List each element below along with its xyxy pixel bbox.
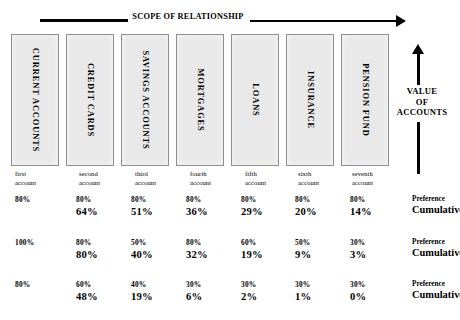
data-cell: 40%19% xyxy=(131,280,175,314)
value-axis-label-line3: ACCOUNTS xyxy=(386,107,458,118)
data-cell: 30%6% xyxy=(186,280,230,314)
cumulative-value: 40% xyxy=(131,249,175,260)
account-label-noun: account xyxy=(79,179,100,188)
scope-axis-label: SCOPE OF RELATIONSHIP xyxy=(130,12,246,21)
account-label-noun: account xyxy=(15,179,36,188)
scope-axis-line-right xyxy=(250,20,398,22)
data-cell: 80% xyxy=(15,280,59,314)
preference-value: 50% xyxy=(131,238,175,247)
account-label-4: fourthaccount xyxy=(190,170,211,187)
product-box-label: INSURANCE xyxy=(306,71,315,129)
cumulative-value: 20% xyxy=(295,206,339,217)
preference-value: 30% xyxy=(186,280,230,289)
data-cell: 80%51% xyxy=(131,195,175,229)
value-axis-label-line2: OF xyxy=(386,97,458,108)
product-box-5: LOANS xyxy=(231,34,279,166)
data-cell: 80%20% xyxy=(295,195,339,229)
account-label-ordinal: sixth xyxy=(298,170,319,179)
cumulative-value: 14% xyxy=(350,206,394,217)
preference-value: 30% xyxy=(350,280,394,289)
scope-of-relationship-axis: SCOPE OF RELATIONSHIP xyxy=(0,8,460,30)
product-box-6: INSURANCE xyxy=(286,34,334,166)
data-cell: 50%9% xyxy=(295,238,339,272)
scope-axis-line-left xyxy=(40,19,128,22)
preference-value: 80% xyxy=(241,195,285,204)
account-label-ordinal: second xyxy=(79,170,100,179)
preference-value: 80% xyxy=(186,195,230,204)
data-cell: 30%1% xyxy=(295,280,339,314)
row-series-labels: PreferenceCumulative xyxy=(412,238,460,259)
value-axis-line-bottom xyxy=(417,122,420,174)
cumulative-value: 1% xyxy=(295,291,339,302)
data-cell: 100% xyxy=(15,238,59,272)
data-cell: 80%36% xyxy=(186,195,230,229)
data-cell: 50%40% xyxy=(131,238,175,272)
account-label-ordinal: fourth xyxy=(190,170,211,179)
product-box-label: LOANS xyxy=(251,83,260,116)
row-label-preference: Preference xyxy=(412,238,460,246)
data-cell: 30%3% xyxy=(350,238,394,272)
account-label-noun: account xyxy=(245,179,266,188)
row-label-cumulative: Cumulative xyxy=(412,247,460,259)
account-label-ordinal: fifth xyxy=(245,170,266,179)
value-axis-line-top xyxy=(417,53,420,85)
data-cell: 80%64% xyxy=(76,195,120,229)
preference-value: 80% xyxy=(131,195,175,204)
account-label-1: firstaccount xyxy=(15,170,36,187)
data-cell: 60%48% xyxy=(76,280,120,314)
cumulative-value: 0% xyxy=(350,291,394,302)
account-label-ordinal: seventh xyxy=(352,170,373,179)
product-box-label: CREDIT CARDS xyxy=(86,63,95,137)
preference-value: 50% xyxy=(295,238,339,247)
arrow-right-icon xyxy=(396,15,406,27)
product-box-label: SAVINGS ACCOUNTS xyxy=(141,50,150,149)
row-label-preference: Preference xyxy=(412,280,460,288)
data-cell: 30%0% xyxy=(350,280,394,314)
diagram-canvas: SCOPE OF RELATIONSHIP CURRENT ACCOUNTSCR… xyxy=(0,0,460,320)
cumulative-value: 3% xyxy=(350,249,394,260)
account-label-2: secondaccount xyxy=(79,170,100,187)
account-label-noun: account xyxy=(190,179,211,188)
cumulative-value: 6% xyxy=(186,291,230,302)
account-label-6: sixthaccount xyxy=(298,170,319,187)
product-box-3: SAVINGS ACCOUNTS xyxy=(121,34,169,166)
data-row: 100%80%80%50%40%80%32%60%19%50%9%30%3%Pr… xyxy=(0,238,460,272)
product-box-label: PENSION FUND xyxy=(361,63,370,136)
product-box-group: CURRENT ACCOUNTSCREDIT CARDSSAVINGS ACCO… xyxy=(0,34,400,166)
value-axis-label-line1: VALUE xyxy=(386,86,458,97)
product-box-label: MORTGAGES xyxy=(196,68,205,131)
cumulative-value: 2% xyxy=(241,291,285,302)
data-row: 80%60%48%40%19%30%6%30%2%30%1%30%0%Prefe… xyxy=(0,280,460,314)
preference-value: 30% xyxy=(295,280,339,289)
account-label-noun: account xyxy=(135,179,156,188)
preference-value: 40% xyxy=(131,280,175,289)
cumulative-value: 80% xyxy=(76,249,120,260)
row-label-cumulative: Cumulative xyxy=(412,289,460,301)
account-label-row: firstaccountsecondaccountthirdaccountfou… xyxy=(0,170,460,194)
preference-value: 80% xyxy=(295,195,339,204)
data-cell: 80%14% xyxy=(350,195,394,229)
cumulative-value: 48% xyxy=(76,291,120,302)
preference-value: 30% xyxy=(350,238,394,247)
data-cell: 80%29% xyxy=(241,195,285,229)
product-box-2: CREDIT CARDS xyxy=(66,34,114,166)
cumulative-value: 51% xyxy=(131,206,175,217)
product-box-4: MORTGAGES xyxy=(176,34,224,166)
row-series-labels: PreferenceCumulative xyxy=(412,280,460,301)
preference-value: 80% xyxy=(15,280,59,289)
value-axis-label: VALUE OF ACCOUNTS xyxy=(386,86,458,118)
account-label-noun: account xyxy=(352,179,373,188)
account-label-ordinal: first xyxy=(15,170,36,179)
preference-value: 60% xyxy=(241,238,285,247)
cumulative-value: 9% xyxy=(295,249,339,260)
cumulative-value: 29% xyxy=(241,206,285,217)
cumulative-value: 36% xyxy=(186,206,230,217)
preference-value: 80% xyxy=(186,238,230,247)
preference-value: 80% xyxy=(76,195,120,204)
product-box-7: PENSION FUND xyxy=(341,34,389,166)
row-label-preference: Preference xyxy=(412,195,460,203)
product-box-1: CURRENT ACCOUNTS xyxy=(11,34,59,166)
data-cell: 30%2% xyxy=(241,280,285,314)
account-label-noun: account xyxy=(298,179,319,188)
data-cell: 80%32% xyxy=(186,238,230,272)
